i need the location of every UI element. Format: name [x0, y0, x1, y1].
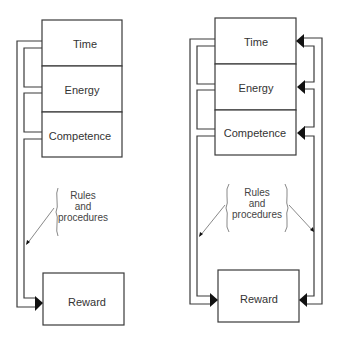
right-rules-line2: and	[249, 198, 266, 209]
right-competence-feedback-arrow-icon	[297, 126, 305, 140]
left-rules-line3: procedures	[58, 212, 108, 223]
right-time-label: Time	[244, 36, 268, 48]
diagram-canvas: Time Energy Competence Rules and procedu…	[0, 0, 340, 341]
right-reward-arrow-out-icon	[299, 293, 307, 307]
right-left-brace-icon	[226, 184, 229, 232]
right-input-stack: Time Energy Competence	[215, 18, 296, 155]
right-right-brace-icon	[285, 184, 288, 232]
left-diagram: Time Energy Competence Rules and procedu…	[17, 20, 124, 325]
right-reward-arrow-in-icon	[210, 293, 218, 307]
left-input-stack: Time Energy Competence	[42, 20, 122, 157]
left-competence-label: Competence	[49, 130, 111, 142]
right-reward-label: Reward	[240, 293, 278, 305]
right-rules-pointer-right-arrow	[289, 205, 313, 231]
right-rules-pointer-left-arrow	[200, 205, 225, 236]
right-output: Reward	[210, 270, 307, 322]
left-time-label: Time	[73, 38, 97, 50]
right-time-feedback-arrow-icon	[296, 34, 304, 48]
left-output: Reward	[35, 273, 124, 325]
right-rules-line3: procedures	[232, 209, 282, 220]
left-connector-lines	[17, 41, 42, 307]
left-rules-pointer-arrow	[27, 208, 54, 244]
left-rules-line2: and	[75, 201, 92, 212]
left-reward-label: Reward	[68, 296, 106, 308]
right-diagram: Time Energy Competence Rules and procedu…	[190, 18, 322, 322]
left-rules-annotation: Rules and procedures	[26, 188, 108, 245]
right-rules-annotation: Rules and procedures	[199, 184, 314, 237]
right-feedback-arrows	[296, 34, 305, 140]
left-reward-arrow-icon	[35, 296, 43, 311]
right-rules-line1: Rules	[244, 187, 270, 198]
right-feedback-lines	[304, 38, 322, 304]
left-energy-label: Energy	[65, 84, 100, 96]
right-competence-label: Competence	[224, 127, 286, 139]
right-connector-lines-left	[190, 39, 215, 304]
right-energy-feedback-arrow-icon	[297, 80, 305, 94]
left-rules-line1: Rules	[70, 190, 96, 201]
right-energy-label: Energy	[239, 82, 274, 94]
